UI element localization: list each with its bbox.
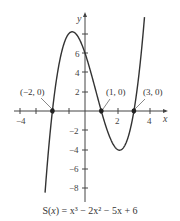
point-label: (−2, 0) <box>20 87 45 97</box>
annotation-leaders <box>41 98 145 109</box>
y-tick-label: −8 <box>69 183 79 193</box>
x-axis-label: x <box>162 113 168 124</box>
intercept-point <box>99 109 104 114</box>
graph-canvas: −4 2 4 x 2 4 6 −2 −4 −6 −8 y (−2, 0) (1,… <box>0 0 180 221</box>
y-axis-arrow-icon <box>83 12 87 17</box>
x-tick-label: −4 <box>16 116 26 126</box>
intercept-point <box>50 109 55 114</box>
caption-rest: ) = x³ − 2x² − 5x + 6 <box>56 205 138 216</box>
caption-prefix: S( <box>42 205 51 216</box>
x-tick-label: 4 <box>147 116 152 126</box>
y-tick-label: 2 <box>75 87 80 97</box>
y-tick-label: 6 <box>75 49 80 59</box>
y-tick-label: 4 <box>75 68 80 78</box>
y-axis-label: y <box>76 13 82 24</box>
function-caption: S(x) = x³ − 2x² − 5x + 6 <box>0 205 180 216</box>
point-label: (3, 0) <box>143 87 163 97</box>
y-tick-label: −6 <box>69 164 79 174</box>
function-curve <box>45 17 144 193</box>
point-label: (1, 0) <box>106 87 126 97</box>
x-tick-label: 2 <box>115 116 120 126</box>
y-tick-label: −2 <box>69 126 79 136</box>
intercept-point <box>132 109 137 114</box>
y-tick-label: −4 <box>69 145 79 155</box>
